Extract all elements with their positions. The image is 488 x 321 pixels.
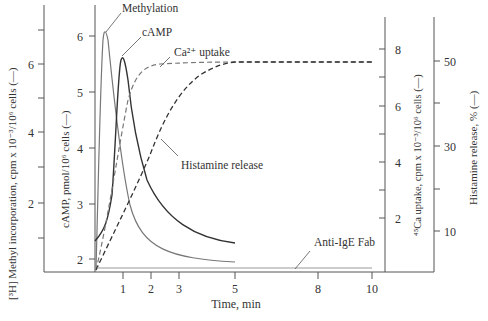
- ca-axis-label: ⁴⁵Ca uptake, cpm x 10⁻³/10⁶ cells (––): [412, 74, 424, 236]
- histamine-axis: [434, 17, 440, 272]
- ca-tick-6: 6: [395, 100, 401, 114]
- camp-axis-label: cAMP, pmol/10⁶ cells (—): [59, 110, 72, 228]
- chart-figure: 6 4 2 [³H] Methyl incorporation, cpm x 1…: [0, 0, 488, 321]
- x-tick-10: 10: [366, 282, 378, 296]
- methylation-leader: [106, 13, 121, 32]
- ca-uptake-label: Ca²⁺ uptake: [174, 46, 230, 59]
- camp-tick-6: 6: [77, 30, 83, 44]
- methyl-tick-2: 2: [28, 197, 34, 211]
- camp-tick-5: 5: [77, 86, 83, 100]
- ca-axis: [379, 17, 385, 272]
- antiige-label: Anti-IgE Fab: [314, 236, 375, 249]
- x-tick-8: 8: [315, 282, 321, 296]
- hist-tick-10: 10: [444, 225, 456, 239]
- x-tick-1: 1: [120, 282, 126, 296]
- camp-tick-4: 4: [77, 142, 83, 156]
- histamine-leader: [161, 139, 178, 156]
- methylation-curve: [96, 32, 235, 268]
- camp-tick-2: 2: [77, 253, 83, 267]
- ca-tick-8: 8: [395, 43, 401, 57]
- hist-tick-50: 50: [444, 55, 456, 69]
- camp-leader: [122, 37, 141, 56]
- methyl-tick-4: 4: [28, 126, 34, 140]
- camp-curve: [95, 58, 235, 243]
- antiige-leader: [295, 251, 310, 269]
- histamine-label: Histamine release: [181, 159, 263, 171]
- methyl-axis-label: [³H] Methyl incorporation, cpm x 10⁻³/10…: [6, 67, 19, 300]
- ca-leader: [160, 57, 170, 67]
- methylation-label: Methylation: [122, 2, 178, 15]
- x-axis-label: Time, min: [211, 297, 261, 311]
- camp-label: cAMP: [142, 26, 172, 38]
- x-tick-3: 3: [176, 282, 182, 296]
- camp-axis: [89, 5, 95, 272]
- camp-tick-3: 3: [77, 198, 83, 212]
- x-tick-5: 5: [232, 282, 238, 296]
- hist-tick-30: 30: [444, 140, 456, 154]
- ca-tick-4: 4: [395, 156, 401, 170]
- x-axis: [95, 272, 434, 279]
- methyl-tick-6: 6: [28, 58, 34, 72]
- hist-axis-label: Histamine release, % (––): [467, 90, 480, 205]
- x-tick-2: 2: [148, 282, 154, 296]
- ca-tick-2: 2: [395, 212, 401, 226]
